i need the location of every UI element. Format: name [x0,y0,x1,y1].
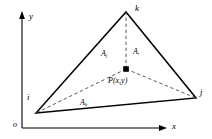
area-label-aj-subscript: j [106,53,107,58]
x-axis-label: x [172,122,176,131]
origin-label: o [13,121,17,129]
figure-container: y x o i j k P(x,y) Aj Ai Ak [0,0,212,139]
area-label-ak-subscript: k [85,102,87,107]
point-p-label: P(x,y) [108,77,127,85]
vertex-label-k: k [135,4,139,13]
vertex-label-i: i [27,93,30,102]
sub-area-divider-lines [36,12,196,113]
area-label-aj: Aj [101,50,107,59]
area-label-ai: Ai [133,48,139,57]
x-axis [22,125,167,131]
y-axis-label: y [29,12,33,21]
area-label-ak: Ak [80,99,87,108]
point-p-marker [123,66,129,72]
triangle-element [36,12,196,113]
vertex-label-j: j [200,88,203,97]
y-axis [19,11,25,128]
area-label-ai-subscript: i [138,51,139,56]
